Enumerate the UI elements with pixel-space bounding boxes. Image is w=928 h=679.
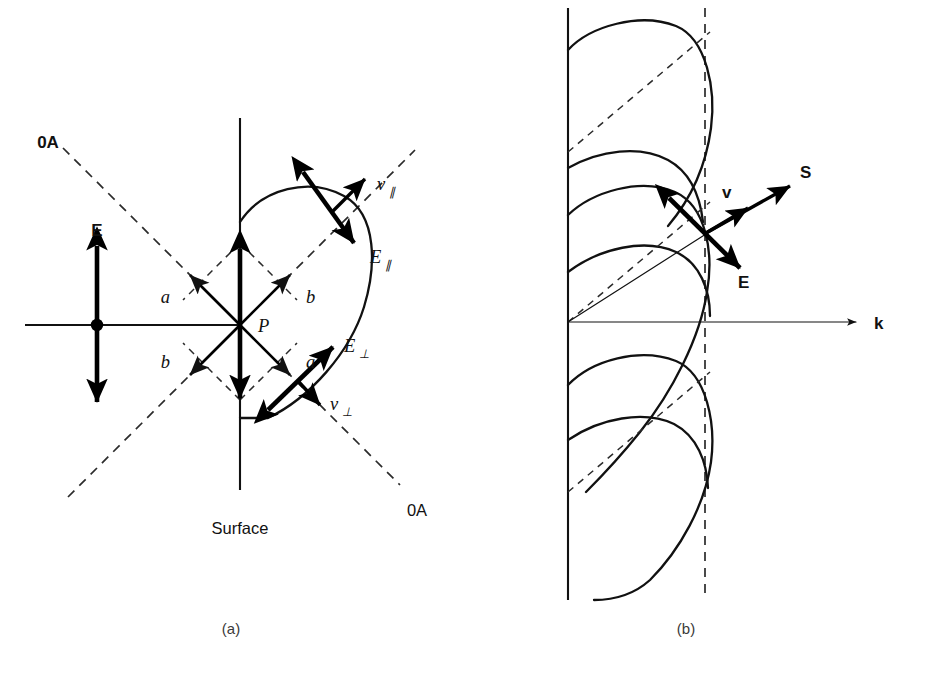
velocity-v-label: v bbox=[722, 183, 732, 202]
panel-a-caption: (a) bbox=[222, 620, 240, 637]
point-P-label: P bbox=[257, 316, 269, 336]
rhombus-edge-bottom-left bbox=[183, 343, 240, 400]
wavevector-k-label: k bbox=[874, 314, 884, 333]
E-perp-label-group: E ⊥ bbox=[343, 336, 369, 361]
component-a-lower-label: a bbox=[306, 352, 315, 372]
propagation-dot-marker bbox=[91, 319, 103, 331]
wave-lobe-middle-inner bbox=[568, 246, 710, 316]
v-parallel-label: v bbox=[377, 174, 386, 194]
physics-diagram-canvas: 0A E P a b b a v ∥ E ∥ E ⊥ v ⊥ bbox=[0, 0, 928, 679]
v-parallel-label-group: v ∥ bbox=[377, 174, 396, 199]
panel-b-caption: (b) bbox=[677, 620, 695, 637]
poynting-S-arrow bbox=[706, 186, 790, 233]
wave-lobe-middle-outer bbox=[568, 186, 709, 492]
component-b-lower-label: b bbox=[161, 352, 170, 372]
wave-lobe-upper-outer bbox=[568, 20, 712, 226]
poynting-S-label: S bbox=[800, 163, 811, 182]
optic-axis-top-label: 0A bbox=[37, 133, 59, 152]
figure-root: 0A E P a b b a v ∥ E ∥ E ⊥ v ⊥ bbox=[0, 0, 928, 679]
wave-lobe-lower-inner bbox=[568, 417, 708, 488]
rhombus-edge-top-right bbox=[240, 243, 297, 300]
E-perp-double-arrow bbox=[268, 347, 333, 410]
E-perp-subscript: ⊥ bbox=[359, 347, 369, 361]
ray-dashed-lower bbox=[568, 372, 710, 492]
E-field-label-panel-b: E bbox=[738, 273, 749, 292]
ray-solid-to-junction bbox=[568, 234, 706, 322]
v-parallel-arrow bbox=[331, 179, 365, 213]
E-field-label: E bbox=[91, 221, 102, 240]
v-perp-label: v bbox=[330, 394, 339, 414]
panel-b-group: S v E k (b) bbox=[568, 8, 884, 637]
v-perp-arrow bbox=[298, 381, 320, 405]
component-b-lower-arrow bbox=[190, 325, 240, 375]
optic-axis-bottom-label: 0A bbox=[407, 501, 427, 519]
component-a-upper-arrow bbox=[190, 275, 240, 325]
v-perp-label-group: v ⊥ bbox=[330, 394, 352, 419]
wave-lobe-lower-outer bbox=[568, 355, 712, 600]
E-parallel-label: E bbox=[369, 247, 381, 267]
E-parallel-subscript: ∥ bbox=[385, 258, 392, 272]
v-perp-subscript: ⊥ bbox=[342, 405, 352, 419]
ray-dashed-upper bbox=[568, 32, 710, 152]
panel-a-group: 0A E P a b b a v ∥ E ∥ E ⊥ v ⊥ bbox=[25, 118, 427, 637]
component-b-upper-label: b bbox=[306, 287, 315, 307]
E-perp-label: E bbox=[343, 336, 355, 356]
surface-label: Surface bbox=[212, 519, 269, 537]
rhombus-edge-top-left bbox=[183, 243, 240, 300]
component-a-upper-label: a bbox=[161, 287, 170, 307]
v-parallel-subscript: ∥ bbox=[389, 185, 396, 199]
E-parallel-double-arrow bbox=[303, 172, 354, 243]
